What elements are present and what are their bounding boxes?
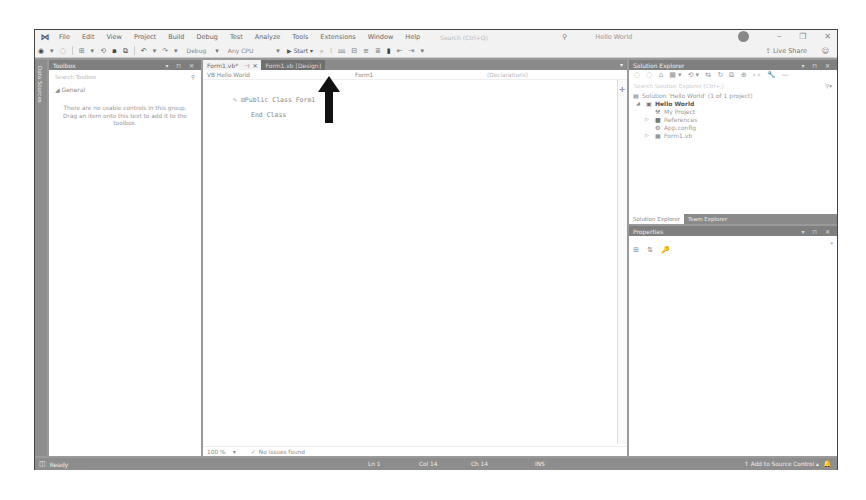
step-icon[interactable]: ⅏	[335, 46, 348, 55]
properties-dropdown-icon[interactable]: ▾	[830, 240, 833, 246]
menu-analyze[interactable]: Analyze	[249, 33, 287, 41]
output-icon[interactable]: ◫	[39, 460, 46, 468]
menu-edit[interactable]: Edit	[76, 33, 101, 41]
code-line-2: End Class	[233, 108, 315, 123]
menu-project[interactable]: Project	[128, 33, 162, 41]
menu-file[interactable]: File	[53, 33, 76, 41]
menu-help[interactable]: Help	[399, 33, 426, 41]
feedback-icon[interactable]: ☺	[822, 47, 829, 55]
properties-window-controls[interactable]: ▾ ⊓ ✕	[801, 228, 833, 235]
align-icon[interactable]: ⊟	[348, 47, 360, 55]
zoom-level[interactable]: 100 %	[203, 449, 233, 455]
tree-item-form1[interactable]: ▷ ▦ Form1.vb	[633, 131, 837, 139]
back-dropdown-icon[interactable]: ▾	[47, 47, 57, 55]
tab-form1-vb[interactable]: Form1.vb* ⊣ ✕	[203, 60, 261, 70]
solution-explorer-window-controls[interactable]: ▾ ⊓ ✕	[801, 62, 833, 69]
redo-icon[interactable]: ↷	[159, 47, 171, 55]
solution-explorer-search-input[interactable]: Search Solution Explorer (Ctrl+;) ⚲▾	[629, 81, 837, 91]
toolbox-group-general[interactable]: ◢ General	[49, 82, 201, 97]
tree-item-references[interactable]: ▷ ■ References	[633, 115, 837, 123]
data-sources-tab[interactable]: Data Sources	[37, 66, 43, 103]
quick-search-input[interactable]: Search (Ctrl+Q)	[440, 33, 550, 42]
tab-form1-design[interactable]: Form1.vb [Design]	[261, 60, 325, 70]
zoom-chevron-down-icon[interactable]: ▾	[233, 449, 245, 455]
bookmark-prev-icon[interactable]: ⇤	[394, 47, 406, 55]
search-icon[interactable]: ⚲	[191, 74, 195, 80]
undo-icon[interactable]: ↶	[138, 47, 150, 55]
split-editor-icon[interactable]: ✛	[619, 86, 625, 94]
new-project-icon[interactable]: ⊞	[76, 47, 88, 55]
live-share-button[interactable]: ⇪ Live Share	[765, 47, 807, 55]
undo-dropdown-icon[interactable]: ▾	[150, 47, 160, 55]
minimize-button[interactable]: –	[777, 32, 781, 41]
tree-item-project[interactable]: ◢ ▣ Hello World	[633, 99, 837, 107]
save-all-icon[interactable]: ⧉	[120, 47, 131, 55]
redo-dropdown-icon[interactable]: ▾	[171, 47, 181, 55]
column-number: Col 14	[419, 461, 437, 467]
editor-scrollbar[interactable]: ✛	[617, 80, 627, 444]
account-avatar[interactable]	[738, 31, 749, 42]
tree-label: Solution 'Hello World' (1 of 1 project)	[642, 92, 753, 99]
toolbar-options-icon[interactable]: ▾	[417, 47, 427, 55]
config-chevron-down-icon[interactable]: ▾	[212, 47, 222, 55]
menu-window[interactable]: Window	[362, 33, 400, 41]
tab-solution-explorer[interactable]: Solution Explorer	[629, 214, 684, 224]
outdent-icon[interactable]: ≣	[372, 47, 384, 55]
tab-overflow-icon[interactable]: ▾	[620, 61, 623, 68]
class-dropdown[interactable]: Form1	[353, 72, 483, 78]
tree-item-solution[interactable]: ▤ Solution 'Hello World' (1 of 1 project…	[633, 91, 837, 99]
arrow-annotation-icon	[318, 76, 340, 123]
open-icon[interactable]: ⟲	[97, 47, 109, 55]
insert-mode: INS	[535, 461, 545, 467]
code-area[interactable]: ✎⊟Public Class Form1 End Class	[233, 93, 315, 123]
menu-extensions[interactable]: Extensions	[314, 33, 361, 41]
close-icon[interactable]: ✕	[252, 62, 257, 69]
issues-indicator[interactable]: ✓No issues found	[245, 449, 305, 455]
collapse-icon[interactable]: ▷	[645, 116, 655, 122]
hot-reload-icon[interactable]: ⁝	[327, 47, 335, 55]
platform-chevron-down-icon[interactable]: ▾	[273, 47, 283, 55]
attach-icon[interactable]: ⌕	[317, 47, 327, 55]
bookmark-icon[interactable]: ▮	[384, 47, 394, 55]
tree-item-app-config[interactable]: ⚙ App.config	[633, 123, 837, 131]
properties-toolbar[interactable]: ⊞ ⇅ 🔑	[629, 236, 837, 264]
search-icon[interactable]: ⚲	[562, 33, 567, 41]
pin-icon[interactable]: ⊣	[244, 62, 249, 69]
add-to-source-control-button[interactable]: ↑ Add to Source Control ▴	[744, 461, 819, 467]
indent-icon[interactable]: ≡	[360, 47, 372, 55]
code-text: ⊟Public Class Form1	[241, 96, 315, 104]
code-line-1: ✎⊟Public Class Form1	[233, 93, 315, 108]
data-sources-strip[interactable]: Data Sources	[35, 60, 47, 456]
solution-explorer-toolbar[interactable]: ◌ ◌ ⌂ ▦▾ ⟲▾ ⇆ ↻ ⧉ ⊕ ‹› 🔧 —	[629, 70, 837, 81]
menu-tools[interactable]: Tools	[286, 33, 314, 41]
solution-configuration-dropdown[interactable]: Debug	[181, 47, 213, 54]
edit-pencil-icon: ✎	[233, 96, 237, 104]
visual-studio-window: ⋈ File Edit View Project Build Debug Tes…	[34, 29, 838, 470]
notifications-bell-icon[interactable]: 🔔	[823, 460, 832, 468]
member-dropdown[interactable]: (Declarations)	[483, 72, 528, 78]
tab-team-explorer[interactable]: Team Explorer	[684, 214, 731, 224]
expand-icon[interactable]: ◢	[636, 100, 646, 106]
menu-test[interactable]: Test	[224, 33, 249, 41]
toolbox-panel: Toolbox ▾ ⊓ ✕ Search Toolbox ⚲ ◢ General…	[49, 60, 201, 456]
start-button[interactable]: ▶ Start ▾	[283, 47, 317, 54]
forward-icon[interactable]: ◌	[57, 47, 69, 55]
save-icon[interactable]: ▪	[109, 47, 120, 55]
menu-view[interactable]: View	[100, 33, 127, 41]
solution-platform-dropdown[interactable]: Any CPU	[222, 47, 260, 54]
restore-button[interactable]: ❐	[799, 32, 806, 41]
close-button[interactable]: ✕	[824, 32, 831, 41]
toolbox-search-input[interactable]: Search Toolbox ⚲	[49, 72, 201, 82]
live-share-label: Live Share	[773, 47, 807, 55]
solution-icon: ▤	[633, 92, 642, 99]
back-icon[interactable]: ◉	[35, 47, 47, 55]
toolbox-window-controls[interactable]: ▾ ⊓ ✕	[165, 62, 197, 69]
menu-debug[interactable]: Debug	[191, 33, 224, 41]
bookmark-next-icon[interactable]: ⇥	[406, 47, 418, 55]
collapse-icon[interactable]: ▷	[645, 132, 655, 138]
menu-build[interactable]: Build	[162, 33, 190, 41]
toolbox-empty-message: There are no usable controls in this gro…	[49, 97, 201, 136]
new-dropdown-icon[interactable]: ▾	[88, 47, 98, 55]
search-icon[interactable]: ⚲▾	[825, 83, 832, 89]
tree-item-my-project[interactable]: ⚒ My Project	[633, 107, 837, 115]
